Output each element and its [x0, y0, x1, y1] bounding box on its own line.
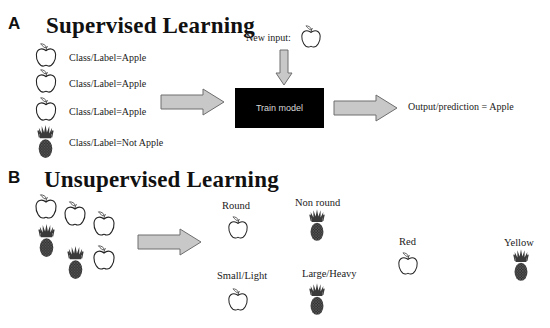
down-arrow-icon: [275, 49, 293, 86]
cluster-label-non-round: Non round: [295, 197, 340, 208]
output-label: Output/prediction = Apple: [408, 101, 514, 112]
new-input-label: New input:: [246, 32, 291, 43]
training-label: Class/Label=Apple: [69, 106, 146, 117]
right-arrow-icon: [333, 94, 399, 122]
cluster-label-red: Red: [399, 236, 416, 247]
cluster-label-yellow: Yellow: [504, 237, 534, 248]
panel-a-title: Supervised Learning: [46, 13, 255, 39]
right-arrow-icon: [137, 228, 203, 256]
pineapple-icon: [308, 283, 326, 316]
pineapple-icon: [37, 224, 56, 258]
apple-icon: [92, 211, 116, 237]
apple-icon: [34, 97, 58, 122]
pineapple-icon: [308, 209, 326, 242]
pineapple-icon: [66, 246, 85, 280]
apple-icon: [300, 25, 322, 49]
pineapple-icon: [512, 249, 530, 282]
panel-b-title: Unsupervised Learning: [44, 167, 279, 193]
right-arrow-icon: [160, 88, 226, 116]
apple-icon: [92, 245, 116, 271]
cluster-label-round: Round: [222, 200, 250, 211]
apple-icon: [34, 69, 58, 94]
training-label: Class/Label=Apple: [69, 78, 146, 89]
panel-b-letter: B: [8, 168, 20, 188]
apple-icon: [63, 201, 87, 227]
training-label: Class/Label=Not Apple: [69, 137, 163, 148]
training-label: Class/Label=Apple: [69, 52, 146, 63]
cluster-label-small-light: Small/Light: [217, 270, 267, 281]
apple-icon: [397, 252, 419, 276]
train-model-box: Train model: [235, 88, 324, 128]
apple-icon: [34, 194, 58, 220]
apple-icon: [34, 43, 58, 68]
apple-icon: [227, 216, 249, 240]
apple-icon: [227, 288, 249, 312]
cluster-label-large-heavy: Large/Heavy: [302, 268, 357, 279]
pineapple-icon: [36, 125, 55, 159]
panel-a-letter: A: [8, 14, 20, 34]
train-model-label: Train model: [256, 103, 303, 113]
